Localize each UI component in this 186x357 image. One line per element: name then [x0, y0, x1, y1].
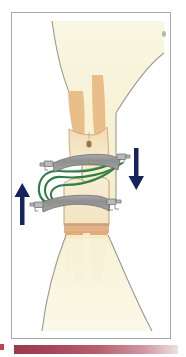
- corner-registration-dot: [162, 31, 166, 37]
- intrusion-force-arrow: [129, 148, 145, 190]
- bracket-hook-lower-right: [107, 199, 121, 210]
- decay-lesion: [86, 140, 91, 147]
- extrusion-force-arrow: [15, 183, 31, 225]
- bracket-hook-lower-left: [30, 202, 43, 211]
- upper-alveolar-bone: [52, 21, 164, 203]
- footer-gradient-bar: [14, 345, 178, 354]
- dental-illustration: [12, 13, 170, 338]
- footer-tick-marker: [0, 344, 4, 350]
- lower-alveolar-bone: [42, 235, 152, 331]
- figure-root: Orthodontic forced eruption diagram Cros…: [0, 0, 186, 357]
- illustration-panel: Orthodontic forced eruption diagram Cros…: [11, 12, 171, 339]
- bracket-hook-upper-left: [40, 161, 53, 170]
